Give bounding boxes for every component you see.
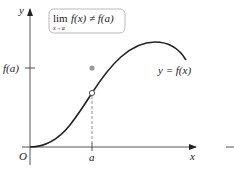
callout-lim: lim: [53, 12, 68, 24]
origin-label: O: [19, 150, 27, 162]
function-curve: [30, 42, 186, 147]
open-point: [89, 90, 94, 95]
x-tick-label: a: [89, 151, 95, 163]
callout-expression: f(x) ≠ f(a): [71, 12, 114, 25]
curve-label: y = f(x): [157, 64, 191, 77]
limit-diagram: lim x→a f(x) ≠ f(a) y x O f(a) a y = f(x…: [0, 0, 234, 170]
filled-point: [89, 65, 94, 70]
x-axis-label: x: [189, 150, 195, 162]
callout-subscript: x→a: [52, 25, 65, 31]
y-tick-label: f(a): [3, 62, 19, 75]
y-axis-label: y: [18, 4, 24, 16]
